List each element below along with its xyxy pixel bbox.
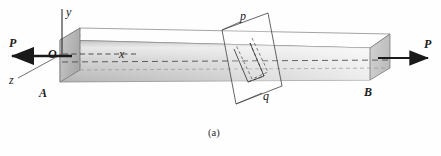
label-force-left: P [9, 37, 16, 49]
label-force-right: P [424, 38, 431, 50]
figure-container: #d9d9d9 [0, 0, 441, 156]
label-section-p: p [240, 10, 246, 22]
label-axis-y: y [66, 6, 71, 18]
label-end-b: B [364, 86, 372, 98]
figure-caption: (a) [208, 128, 220, 139]
section-plane-outline [222, 13, 282, 104]
label-origin: O [48, 48, 57, 60]
label-axis-x: x [119, 48, 124, 60]
label-end-a: A [39, 87, 47, 99]
label-axis-z: z [9, 74, 14, 86]
label-section-q: q [263, 90, 269, 102]
inclined-section-plane [222, 13, 282, 104]
bar-diagram-svg: #d9d9d9 [0, 0, 441, 156]
